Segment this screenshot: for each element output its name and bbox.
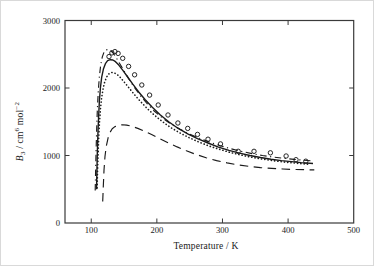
series-dash-dot-curve <box>95 49 313 190</box>
series-dotted-curve <box>97 73 310 188</box>
data-point-circle <box>252 149 256 153</box>
data-point-circle <box>126 64 130 68</box>
y-axis-superscript-2: −2 <box>13 102 21 110</box>
data-point-circle <box>140 83 144 87</box>
y-tick-label-3000: 3000 <box>43 16 60 26</box>
series-experimental-points <box>107 49 308 163</box>
x-tick-label-100: 100 <box>85 225 98 235</box>
x-tick-label-500: 500 <box>347 225 360 235</box>
x-tick-label-300: 300 <box>216 225 229 235</box>
plot-canvas: 1002003004005000100020003000 <box>1 1 374 266</box>
data-point-circle <box>156 103 160 107</box>
y-axis-symbol: B <box>15 155 25 161</box>
data-point-circle <box>268 151 272 155</box>
y-axis-subscript: 3 <box>19 151 27 155</box>
x-axis-title-text: Temperature / K <box>173 241 238 251</box>
y-axis-superscript-1: 6 <box>13 128 21 132</box>
data-point-circle <box>121 56 125 60</box>
y-tick-label-1000: 1000 <box>43 151 60 161</box>
x-tick-label-400: 400 <box>282 225 295 235</box>
y-axis-unit-1: / cm <box>15 131 25 151</box>
y-tick-label-2000: 2000 <box>43 83 60 93</box>
solid-curve <box>97 60 314 190</box>
x-tick-label-200: 200 <box>150 225 163 235</box>
data-point-circle <box>132 73 136 77</box>
dash-dot-curve <box>95 49 313 190</box>
y-tick-label-0: 0 <box>56 218 60 228</box>
data-point-circle <box>147 93 151 97</box>
x-axis-title: Temperature / K <box>131 241 281 251</box>
data-point-circle <box>195 132 199 136</box>
data-point-circle <box>166 113 170 117</box>
series-solid-curve <box>97 60 314 190</box>
axis-ticks <box>65 21 354 224</box>
axis-tick-labels: 1002003004005000100020003000 <box>43 16 360 236</box>
data-point-circle <box>206 137 210 141</box>
data-point-circle <box>284 154 288 158</box>
series-long-dash-curve <box>103 125 315 202</box>
long-dash-curve <box>103 125 315 202</box>
y-axis-title: B3 / cm6 mol−2 <box>15 72 30 192</box>
data-point-circle <box>176 121 180 125</box>
dotted-curve <box>97 73 310 188</box>
data-point-circle <box>186 126 190 130</box>
plot-frame <box>65 21 354 224</box>
third-virial-coefficient-figure: 1002003004005000100020003000 Temperature… <box>0 0 374 266</box>
y-axis-unit-2: mol <box>15 110 25 128</box>
